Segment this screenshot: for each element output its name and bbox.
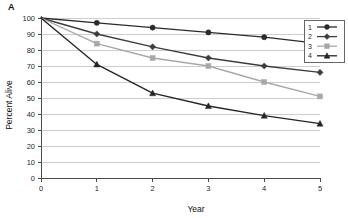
y-tick-label: 50 bbox=[27, 94, 35, 103]
data-point-square bbox=[206, 64, 211, 69]
x-tick-label: 0 bbox=[39, 184, 43, 193]
line-chart: 0102030405060708090100 012345 Percent Al… bbox=[0, 0, 348, 218]
x-tick-label: 5 bbox=[318, 184, 322, 193]
y-tick-label: 60 bbox=[27, 78, 35, 87]
gridlines bbox=[41, 18, 320, 162]
data-point-square bbox=[318, 94, 323, 99]
data-point-diamond bbox=[317, 69, 323, 75]
series-2 bbox=[41, 18, 323, 76]
data-point-circle bbox=[206, 30, 211, 35]
y-tick-label: 10 bbox=[27, 158, 35, 167]
x-tick-label: 3 bbox=[206, 184, 210, 193]
y-tick-label: 30 bbox=[27, 126, 35, 135]
data-point-triangle bbox=[150, 90, 156, 96]
legend-label-1[interactable]: 1 bbox=[308, 24, 312, 31]
x-tick-label: 2 bbox=[151, 184, 155, 193]
x-tick-label: 4 bbox=[262, 184, 266, 193]
data-point-diamond bbox=[94, 31, 100, 37]
data-point-diamond bbox=[150, 44, 156, 50]
data-point-circle bbox=[262, 35, 267, 40]
y-tick-label: 100 bbox=[22, 14, 35, 23]
x-axis-label: Year bbox=[187, 204, 204, 214]
series-line-1 bbox=[41, 18, 320, 44]
data-point-square bbox=[325, 44, 330, 49]
axes bbox=[41, 16, 320, 178]
data-point-circle bbox=[94, 20, 99, 25]
y-tick-label: 70 bbox=[27, 62, 35, 71]
y-axis-label: Percent Alive bbox=[4, 80, 14, 130]
data-point-square bbox=[262, 80, 267, 85]
y-tick-label: 80 bbox=[27, 46, 35, 55]
legend-label-2[interactable]: 2 bbox=[308, 33, 312, 40]
data-point-square bbox=[150, 56, 155, 61]
chart-svg: 0102030405060708090100 012345 Percent Al… bbox=[0, 0, 348, 218]
y-axis-ticks: 0102030405060708090100 bbox=[22, 14, 41, 183]
x-axis-ticks: 012345 bbox=[39, 178, 322, 193]
data-point-square bbox=[94, 41, 99, 46]
y-tick-label: 40 bbox=[27, 110, 35, 119]
data-point-circle bbox=[325, 25, 330, 30]
data-point-circle bbox=[150, 25, 155, 30]
legend[interactable]: 1234 bbox=[304, 20, 344, 62]
y-tick-label: 20 bbox=[27, 142, 35, 151]
y-tick-label: 90 bbox=[27, 30, 35, 39]
x-tick-label: 1 bbox=[95, 184, 99, 193]
legend-label-4[interactable]: 4 bbox=[308, 52, 312, 59]
data-point-diamond bbox=[205, 55, 211, 61]
figure-panel-a: A 0102030405060708090100 012345 Percent … bbox=[0, 0, 348, 218]
data-point-diamond bbox=[261, 63, 267, 69]
series-line-2 bbox=[41, 18, 320, 72]
series-1 bbox=[41, 18, 323, 46]
legend-label-3[interactable]: 3 bbox=[308, 43, 312, 50]
y-tick-label: 0 bbox=[31, 174, 35, 183]
